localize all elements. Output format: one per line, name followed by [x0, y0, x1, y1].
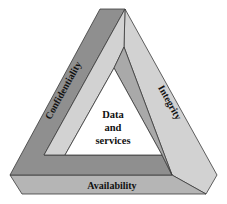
center-label-line-2: and [105, 122, 122, 133]
center-label-line-3: services [96, 135, 131, 146]
cia-triad-diagram: Confidentiality Integrity Availability D… [0, 0, 227, 204]
availability-label: Availability [87, 180, 136, 191]
center-label-line-1: Data [102, 109, 124, 120]
